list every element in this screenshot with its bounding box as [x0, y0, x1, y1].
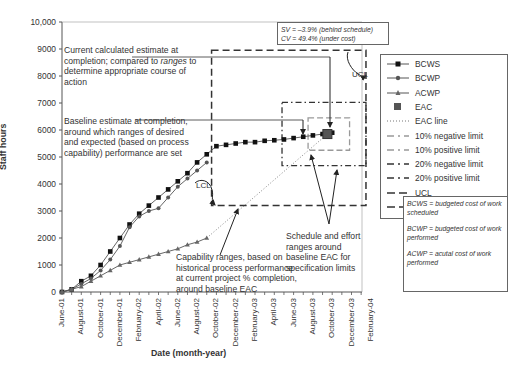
limit-rectangles	[212, 50, 366, 205]
bcwp-marker	[166, 196, 170, 200]
bcws-marker	[108, 249, 113, 254]
cost-variance: CV = 49.4% (under cost)	[281, 34, 385, 43]
schedule-variance: SV = –3.9% (behind schedule)	[281, 25, 385, 34]
x-tick-label: August-03	[308, 298, 317, 358]
schedule-arrow-20	[329, 170, 337, 224]
legend-label: BCWP	[415, 72, 440, 84]
bcws-marker	[224, 143, 229, 148]
bcws-marker	[204, 152, 209, 157]
legend-label: EAC line	[415, 115, 448, 127]
bcws-marker	[166, 187, 171, 192]
y-tick-label: 6000	[6, 125, 56, 135]
y-tick-label: 1000	[6, 260, 56, 270]
legend-label: 20% negative limit	[415, 158, 483, 170]
y-tick-label: 4000	[6, 179, 56, 189]
bcws-marker	[272, 138, 277, 143]
bcws-marker	[156, 195, 161, 200]
x-tick-label: August-01	[76, 298, 85, 358]
x-tick-label: December-03	[347, 298, 356, 358]
bcwp-marker	[118, 244, 122, 248]
x-tick-label: June-01	[57, 298, 66, 358]
legend-label: EAC	[415, 101, 432, 113]
acwp-marker	[98, 273, 103, 277]
y-tick-label: 8000	[6, 71, 56, 81]
bcws-marker	[291, 136, 296, 141]
bcwp-marker	[137, 214, 141, 218]
variance-box: SV = –3.9% (behind schedule) CV = 49.4% …	[277, 22, 389, 45]
bcws-marker	[282, 137, 287, 142]
x-tick-label: October-03	[327, 298, 336, 358]
y-tick-label: 7000	[6, 98, 56, 108]
x-tick-label: December-02	[231, 298, 240, 358]
ucl-label: UCL	[352, 70, 368, 81]
x-tick-label: June-03	[289, 298, 298, 358]
bcws-marker	[176, 179, 181, 184]
y-tick-label: 2000	[6, 233, 56, 243]
bcwp-marker	[176, 185, 180, 189]
bcws-marker	[233, 141, 238, 146]
bcws-marker	[195, 160, 200, 165]
definition-acwp: ACWP = acutal cost of work performed	[407, 250, 504, 267]
bcwp-marker	[195, 169, 199, 173]
legend-label: 10% positive limit	[415, 144, 480, 156]
bcws-marker	[243, 140, 248, 145]
x-tick-label: December-01	[115, 298, 124, 358]
legend-label: BCWS	[415, 58, 440, 70]
y-tick-label: 5000	[6, 152, 56, 162]
y-axis-label: Staff hours	[0, 124, 8, 170]
annotation-capability-ranges: Capability ranges, based on historical p…	[176, 252, 301, 294]
bcws-marker	[185, 171, 190, 176]
x-tick-label: February-03	[250, 298, 259, 358]
bcws-marker	[311, 133, 316, 138]
acwp-marker	[108, 268, 113, 272]
bcws-marker	[262, 139, 267, 144]
bcwp-marker	[157, 206, 161, 210]
y-tick-label: 10,000	[6, 17, 56, 27]
bcws-marker	[253, 140, 258, 145]
acwp-marker	[204, 235, 209, 239]
ucl-lcl-range	[212, 50, 366, 205]
bcwp-marker	[99, 268, 103, 272]
legend-label: 20% positive limit	[415, 172, 480, 184]
eac-marker	[323, 130, 332, 139]
definition-bcwp: BCWP = budgeted cost of work performed	[407, 225, 504, 242]
bcws-marker	[118, 236, 123, 241]
bcwp-marker	[108, 258, 112, 262]
annotation-schedule-effort: Schedule and effort ranges around baseli…	[286, 231, 374, 273]
definitions-box: BCWS = budgeted cost of work scheduled B…	[403, 196, 508, 292]
bcwp-marker	[205, 160, 209, 164]
bcws-marker	[301, 134, 306, 139]
y-tick-label: 3000	[6, 206, 56, 216]
y-tick-label: 9000	[6, 44, 56, 54]
bcwp-marker	[147, 209, 151, 213]
bcws-marker	[214, 144, 219, 149]
annotation-baseline-eac: Baseline estimate at completion, around …	[64, 116, 199, 158]
x-tick-label: February-02	[134, 298, 143, 358]
lcl-label: LCL	[196, 181, 211, 192]
x-tick-label: October-01	[96, 298, 105, 358]
capability-arrow	[220, 209, 238, 255]
x-tick-label: April-03	[269, 298, 278, 358]
eac-line	[207, 134, 328, 238]
definition-bcws: BCWS = budgeted cost of work scheduled	[407, 200, 504, 217]
bcws-marker	[147, 203, 152, 208]
legend: BCWSBCWPACWPEACEAC line10% negative limi…	[380, 54, 508, 219]
legend-label: ACWP	[415, 87, 440, 99]
bcws-marker	[98, 263, 103, 268]
x-tick-label: February-04	[366, 298, 375, 358]
annotation-current-eac: Current calculated estimate at completio…	[64, 45, 199, 87]
y-tick-label: 0	[6, 287, 56, 297]
legend-label: 10% negative limit	[415, 130, 483, 142]
bcwp-marker	[128, 225, 132, 229]
bcwp-marker	[185, 177, 189, 181]
x-axis-label: Date (month-year)	[151, 348, 226, 358]
